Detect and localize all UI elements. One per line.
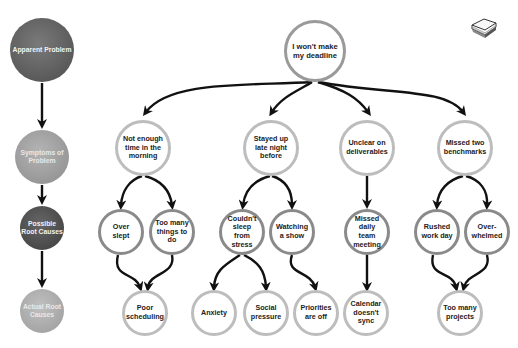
node-possible-cause: Watching a show [269, 209, 315, 255]
legend-actual-root-causes: Actual Root Causes [20, 289, 64, 333]
node-label: Poor scheduling [123, 304, 167, 321]
legend-label: Possible Root Causes [20, 220, 64, 236]
node-actual-cause: Anxiety [191, 290, 237, 336]
node-possible-cause: Couldn't sleep from stress [219, 209, 265, 255]
root-cause-diagram: Apparent Problem Symptoms of Problem Pos… [0, 0, 518, 348]
node-label: Over-whelmed [467, 223, 507, 240]
legend-apparent-problem: Apparent Problem [10, 18, 74, 82]
node-label: Anxiety [198, 309, 230, 318]
legend-possible-root-causes: Possible Root Causes [20, 206, 64, 250]
node-possible-cause: Over-whelmed [464, 209, 510, 255]
node-actual-cause: Priorities are off [293, 290, 339, 336]
node-label: Not enough time in the morning [118, 135, 168, 161]
legend-label: Symptoms of Problem [15, 149, 69, 165]
node-possible-cause: Over slept [98, 209, 144, 255]
stack-of-notes-icon [469, 16, 499, 42]
node-apparent-problem: I won't make my deadline [284, 20, 346, 82]
legend-label: Actual Root Causes [20, 303, 64, 319]
node-symptom: Missed two benchmarks [437, 120, 493, 176]
node-actual-cause: Too many projects [437, 290, 483, 336]
node-label: Missed daily team meeting [347, 215, 387, 249]
legend-label: Apparent Problem [13, 46, 72, 54]
node-possible-cause: Missed daily team meeting [344, 209, 390, 255]
node-label: Too many projects [440, 304, 480, 321]
node-label: Couldn't sleep from stress [222, 215, 262, 249]
node-label: Over slept [101, 223, 141, 240]
node-label: Calendar doesn't sync [346, 300, 386, 326]
node-label: Rushed work day [417, 223, 457, 240]
node-symptom: Not enough time in the morning [115, 120, 171, 176]
node-symptom: Stayed up late night before [243, 120, 299, 176]
node-actual-cause: Calendar doesn't sync [343, 290, 389, 336]
node-possible-cause: Too many things to do [149, 209, 195, 255]
node-label: Social pressure [246, 304, 286, 321]
node-label: I won't make my deadline [287, 42, 343, 60]
node-label: Unclear on deliverables [342, 139, 392, 156]
node-symptom: Unclear on deliverables [339, 120, 395, 176]
node-label: Stayed up late night before [246, 135, 296, 161]
node-actual-cause: Social pressure [243, 290, 289, 336]
node-actual-cause: Poor scheduling [122, 290, 168, 336]
node-label: Too many things to do [152, 219, 192, 245]
node-label: Priorities are off [296, 304, 336, 321]
legend-symptoms-of-problem: Symptoms of Problem [15, 130, 69, 184]
node-label: Watching a show [272, 223, 312, 240]
node-possible-cause: Rushed work day [414, 209, 460, 255]
node-label: Missed two benchmarks [440, 139, 490, 156]
